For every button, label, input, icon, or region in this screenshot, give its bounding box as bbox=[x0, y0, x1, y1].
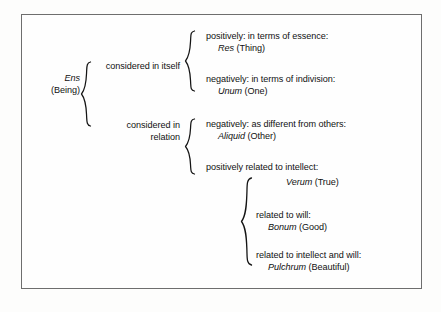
diagram-frame bbox=[21, 14, 422, 289]
leaf-gloss: (Good) bbox=[299, 222, 327, 232]
leaf-description: positively related to intellect: bbox=[206, 161, 318, 173]
brace-considered-in-relation bbox=[184, 118, 198, 175]
leaf-gloss: (One) bbox=[245, 86, 268, 96]
leaf-node-pulchrum: related to intellect and will: Pulchrum … bbox=[256, 249, 361, 274]
leaf-latin: Pulchrum bbox=[268, 262, 306, 272]
root-latin: Ens bbox=[28, 72, 80, 84]
brace-considered-in-itself bbox=[184, 30, 198, 92]
leaf-term-line: Aliquid (Other) bbox=[206, 130, 346, 142]
leaf-latin: Unum bbox=[218, 86, 242, 96]
leaf-term-line: Unum (One) bbox=[206, 85, 335, 97]
root-gloss: (Being) bbox=[28, 84, 80, 96]
leaf-node-bonum: related to will: Bonum (Good) bbox=[256, 209, 327, 234]
leaf-node-res: positively: in terms of essence: Res (Th… bbox=[206, 30, 328, 55]
branch-label-line2: relation bbox=[94, 131, 180, 143]
brace-root bbox=[80, 61, 94, 127]
leaf-gloss: (True) bbox=[315, 177, 339, 187]
root-node-ens: Ens (Being) bbox=[28, 72, 80, 97]
brace-intellect-will-group bbox=[240, 177, 256, 266]
branch-label-considered-in-relation: considered in relation bbox=[94, 119, 180, 144]
leaf-latin: Bonum bbox=[268, 222, 297, 232]
leaf-description: negatively: as different from others: bbox=[206, 118, 346, 130]
branch-label-considered-in-itself: considered in itself bbox=[94, 60, 180, 72]
leaf-term-line: Res (Thing) bbox=[206, 42, 328, 54]
leaf-term-line: Verum (True) bbox=[256, 176, 339, 188]
leaf-node-unum: negatively: in terms of indivision: Unum… bbox=[206, 73, 335, 98]
leaf-latin: Aliquid bbox=[218, 131, 245, 141]
leaf-gloss: (Other) bbox=[247, 131, 275, 141]
branch-label-line1: considered in itself bbox=[94, 60, 180, 72]
leaf-term-line: Bonum (Good) bbox=[256, 221, 327, 233]
transcendentals-diagram: Ens (Being) considered in itself positiv… bbox=[0, 0, 441, 312]
leaf-description: related to intellect and will: bbox=[256, 249, 361, 261]
leaf-description: negatively: in terms of indivision: bbox=[206, 73, 335, 85]
leaf-gloss: (Thing) bbox=[237, 43, 265, 53]
leaf-node-aliquid: negatively: as different from others: Al… bbox=[206, 118, 346, 143]
leaf-term-line: Pulchrum (Beautiful) bbox=[256, 261, 361, 273]
leaf-description: related to will: bbox=[256, 209, 327, 221]
branch-label-line1: considered in bbox=[94, 119, 180, 131]
leaf-node-verum-heading: positively related to intellect: bbox=[206, 161, 318, 173]
leaf-gloss: (Beautiful) bbox=[309, 262, 350, 272]
leaf-description: positively: in terms of essence: bbox=[206, 30, 328, 42]
leaf-latin: Verum bbox=[286, 177, 312, 187]
leaf-node-verum: Verum (True) bbox=[256, 176, 339, 188]
leaf-latin: Res bbox=[218, 43, 234, 53]
